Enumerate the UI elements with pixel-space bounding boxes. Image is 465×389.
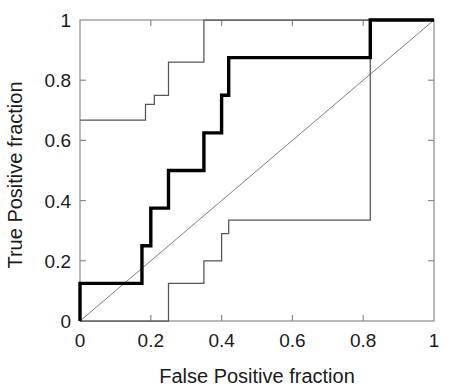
y-tick-label: 0: [60, 311, 71, 332]
x-axis-label: False Positive fraction: [159, 365, 355, 387]
y-tick-label: 1: [60, 10, 71, 31]
x-tick-label: 0: [75, 330, 86, 351]
x-tick-label: 0.4: [208, 330, 235, 351]
y-tick-label: 0.2: [45, 251, 71, 272]
y-tick-label: 0.8: [45, 70, 71, 91]
y-axis-label: True Positive fraction: [4, 81, 26, 268]
y-tick-label: 0.6: [45, 130, 71, 151]
x-tick-label: 0.2: [138, 330, 164, 351]
y-tick-label: 0.4: [45, 191, 72, 212]
x-tick-label: 1: [429, 330, 440, 351]
x-tick-label: 0.8: [350, 330, 376, 351]
roc-chart-figure: 00.20.40.60.81 00.20.40.60.81 False Posi…: [0, 0, 465, 389]
x-tick-label: 0.6: [279, 330, 305, 351]
roc-chart-canvas: 00.20.40.60.81 00.20.40.60.81 False Posi…: [0, 0, 465, 389]
